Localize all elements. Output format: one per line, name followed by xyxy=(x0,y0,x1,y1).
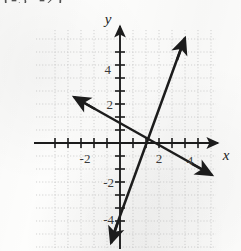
y-tick-label-neg2: -2 xyxy=(103,175,114,190)
y-tick-label-4: 4 xyxy=(105,62,112,77)
y-axis-label: y xyxy=(103,11,112,27)
y-tick-label-neg4: -4 xyxy=(103,212,114,227)
y-tick-label-2: 2 xyxy=(107,97,114,112)
x-axis-label: x xyxy=(222,147,230,163)
grid-lines xyxy=(36,30,216,248)
x-tick-label-2: 2 xyxy=(156,151,163,166)
line-descending-arrow-upleft xyxy=(74,97,95,109)
x-tick-label-4: 4 xyxy=(187,153,194,168)
x-tick-label-neg2: -2 xyxy=(80,151,91,166)
line-descending-arrow-downright xyxy=(192,164,212,175)
graph-screenshot: (-3, -2) xyxy=(0,0,241,251)
line-ascending-arrow-up xyxy=(177,38,185,60)
coordinate-plane: y x -2 2 4 4 2 -2 -4 xyxy=(0,0,241,251)
